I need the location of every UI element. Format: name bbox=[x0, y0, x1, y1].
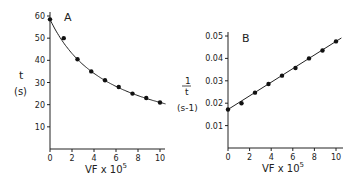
data-point bbox=[75, 57, 79, 61]
panel-b-fit-line bbox=[228, 38, 341, 110]
data-point bbox=[144, 96, 148, 100]
y-tick-label: 0.01 bbox=[205, 122, 223, 131]
panel-a-y-unit: (s) bbox=[14, 86, 27, 97]
panel-b: 0.010.020.030.040.05 0246810 B 1 t (s-1)… bbox=[177, 32, 343, 174]
y-tick-label: 10 bbox=[35, 123, 45, 132]
y-tick-label: 50 bbox=[35, 34, 45, 43]
panel-b-y-ticks: 0.010.020.030.040.05 bbox=[205, 32, 228, 131]
data-point bbox=[320, 48, 324, 52]
panel-a-data-points bbox=[48, 17, 162, 105]
panel-b-label: B bbox=[242, 32, 250, 45]
y-tick-label: 30 bbox=[35, 79, 45, 88]
panel-b-y-label-numerator: 1 bbox=[185, 76, 191, 86]
x-tick-label: 10 bbox=[155, 154, 165, 163]
y-tick-label: 40 bbox=[35, 56, 45, 65]
panel-b-x-ticks: 0246810 bbox=[225, 148, 341, 162]
y-tick-label: 60 bbox=[35, 12, 45, 21]
x-tick-label: 0 bbox=[47, 154, 52, 163]
x-tick-label: 2 bbox=[247, 153, 252, 162]
data-point bbox=[48, 17, 52, 21]
x-tick-label: 6 bbox=[113, 154, 118, 163]
data-point bbox=[117, 85, 121, 89]
y-tick-label: 0.02 bbox=[205, 99, 223, 108]
data-point bbox=[103, 78, 107, 82]
data-point bbox=[130, 91, 134, 95]
x-tick-label: 10 bbox=[331, 153, 341, 162]
x-tick-label: 0 bbox=[225, 153, 230, 162]
x-tick-label: 8 bbox=[135, 154, 140, 163]
data-point bbox=[307, 56, 311, 60]
panel-b-x-label: VF x 105 bbox=[262, 161, 304, 174]
data-point bbox=[62, 36, 66, 40]
y-tick-label: 0.05 bbox=[205, 32, 223, 41]
data-point bbox=[280, 73, 284, 77]
y-tick-label: 20 bbox=[35, 101, 45, 110]
y-tick-label: 0.03 bbox=[205, 77, 223, 86]
panel-a: 102030405060 0246810 A t (s) VF x 105 bbox=[14, 11, 166, 175]
x-tick-label: 2 bbox=[69, 154, 74, 163]
data-point bbox=[266, 82, 270, 86]
panel-a-fit-curve bbox=[50, 19, 166, 104]
panel-a-x-ticks: 0246810 bbox=[47, 149, 165, 163]
x-tick-label: 4 bbox=[91, 154, 96, 163]
data-point bbox=[293, 66, 297, 70]
x-tick-label: 4 bbox=[269, 153, 274, 162]
figure: 102030405060 0246810 A t (s) VF x 105 0.… bbox=[0, 0, 353, 182]
panel-b-y-label-denominator: t bbox=[185, 87, 189, 97]
panel-a-y-label: t bbox=[19, 69, 24, 82]
panel-b-y-unit: (s-1) bbox=[177, 103, 198, 113]
data-point bbox=[226, 107, 230, 111]
x-tick-label: 8 bbox=[312, 153, 317, 162]
x-tick-label: 6 bbox=[290, 153, 295, 162]
data-point bbox=[158, 100, 162, 104]
data-point bbox=[334, 39, 338, 43]
panel-a-x-label: VF x 105 bbox=[85, 162, 127, 175]
data-point bbox=[253, 90, 257, 94]
data-point bbox=[89, 69, 93, 73]
data-point bbox=[239, 101, 243, 105]
y-tick-label: 0.04 bbox=[205, 54, 223, 63]
panel-a-y-ticks: 102030405060 bbox=[35, 12, 50, 132]
panel-a-label: A bbox=[64, 11, 72, 24]
